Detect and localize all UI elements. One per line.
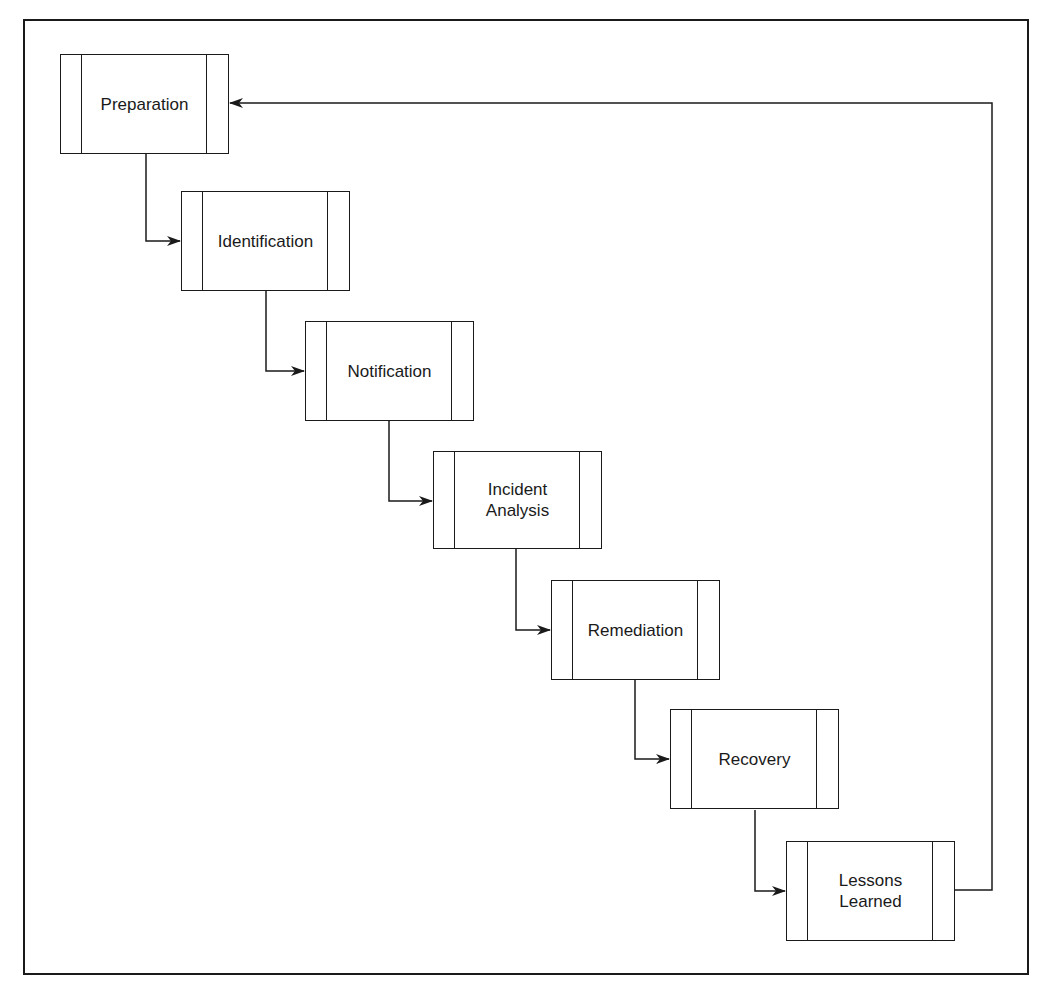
node-left-bar bbox=[691, 710, 692, 808]
node-label: Remediation bbox=[588, 620, 683, 641]
node-right-bar bbox=[932, 842, 933, 940]
node-left-bar bbox=[807, 842, 808, 940]
node-label: Incident Analysis bbox=[486, 479, 549, 521]
node-right-bar bbox=[816, 710, 817, 808]
node-left-bar bbox=[326, 322, 327, 420]
node-label: Lessons Learned bbox=[839, 870, 902, 912]
node-right-bar bbox=[451, 322, 452, 420]
node-remediation: Remediation bbox=[551, 580, 720, 680]
node-label: Identification bbox=[218, 231, 313, 252]
node-incident-analysis: Incident Analysis bbox=[433, 451, 602, 549]
node-left-bar bbox=[454, 452, 455, 548]
node-notification: Notification bbox=[305, 321, 474, 421]
node-label: Recovery bbox=[719, 749, 791, 770]
edge-recovery-lessons-learned bbox=[755, 810, 785, 891]
node-label: Preparation bbox=[101, 94, 189, 115]
node-left-bar bbox=[202, 192, 203, 290]
node-right-bar bbox=[206, 55, 207, 153]
node-preparation: Preparation bbox=[60, 54, 229, 154]
node-identification: Identification bbox=[181, 191, 350, 291]
edge-preparation-identification bbox=[146, 154, 180, 241]
node-recovery: Recovery bbox=[670, 709, 839, 809]
edge-remediation-recovery bbox=[635, 680, 669, 759]
node-left-bar bbox=[81, 55, 82, 153]
node-left-bar bbox=[572, 581, 573, 679]
node-right-bar bbox=[579, 452, 580, 548]
node-label: Notification bbox=[347, 361, 431, 382]
node-lessons-learned: Lessons Learned bbox=[786, 841, 955, 941]
edge-notification-incident-analysis bbox=[389, 421, 432, 501]
edge-incident-analysis-remediation bbox=[516, 549, 550, 630]
edge-identification-notification bbox=[266, 291, 304, 371]
node-right-bar bbox=[697, 581, 698, 679]
node-right-bar bbox=[327, 192, 328, 290]
